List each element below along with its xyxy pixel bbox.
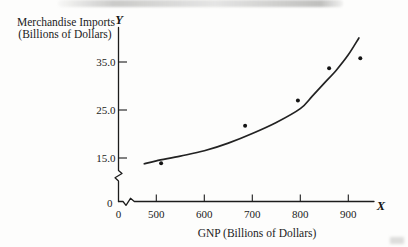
y-origin-label: 0 [107, 197, 113, 209]
data-point [358, 56, 362, 60]
y-axis-line [115, 28, 122, 202]
data-point [243, 124, 247, 128]
x-tick-label: 800 [292, 208, 309, 220]
y-tick-label: 35.0 [96, 56, 116, 68]
x-axis-letter: X [376, 199, 386, 213]
x-tick-label: 600 [196, 208, 213, 220]
x-origin-label: 0 [116, 208, 122, 220]
x-tick-label: 700 [244, 208, 261, 220]
data-point [327, 66, 331, 70]
x-tick-label: 500 [148, 208, 165, 220]
data-point [159, 161, 163, 165]
chart-figure: Merchandise Imports (Billions of Dollars… [0, 0, 408, 247]
trend-curve [144, 38, 359, 164]
y-axis-letter: Y [115, 13, 124, 27]
y-axis-title-line2: (Billions of Dollars) [18, 28, 111, 41]
data-point [296, 98, 300, 102]
x-axis-title: GNP (Billions of Dollars) [198, 227, 317, 240]
x-tick-label: 900 [340, 208, 357, 220]
y-tick-label: 25.0 [96, 104, 116, 116]
y-tick-label: 15.0 [96, 152, 116, 164]
scatter-plot: Merchandise Imports (Billions of Dollars… [0, 0, 408, 247]
